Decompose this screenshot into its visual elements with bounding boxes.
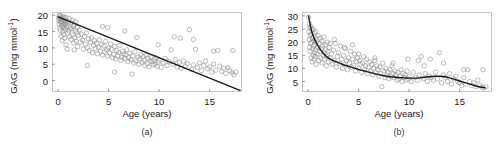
panel-a: GAG (mg mmol-1) 05101505101520 Age (year… (0, 0, 252, 149)
panel-b-x-tick-label: 0 (305, 96, 310, 107)
panel-b-y-tick-label: 20 (274, 37, 298, 48)
panel-a-y-tick-label: 0 (24, 75, 48, 86)
panel-a-x-tick-label: 0 (55, 96, 60, 107)
panel-b-x-tick-label: 5 (356, 96, 361, 107)
panel-a-x-tick-label: 10 (154, 96, 165, 107)
panel-a-canvas (52, 12, 242, 92)
panel-b-x-axis-label: Age (years) (304, 108, 494, 119)
panel-a-plot-area: 05101505101520 (52, 12, 242, 92)
panel-a-x-axis-label: Age (years) (52, 108, 242, 119)
panel-a-y-tick-label: 15 (24, 26, 48, 37)
panel-a-x-tick-label: 15 (204, 96, 215, 107)
panel-a-y-tick-label: 5 (24, 59, 48, 70)
panel-b-scatter-points (306, 15, 488, 90)
panel-a-y-tick-label: 10 (24, 42, 48, 53)
panel-b-canvas (302, 12, 492, 92)
panel-b-x-tick-label: 15 (454, 96, 465, 107)
panel-b-y-tick-label: 25 (274, 24, 298, 35)
panel-b-x-tick-label: 10 (404, 96, 415, 107)
panel-a-y-axis-label: GAG (mg mmol-1) (7, 13, 19, 99)
panel-a-caption: (a) (52, 127, 242, 137)
panel-b-y-tick-label: 5 (274, 76, 298, 87)
panel-a-fit-line (58, 17, 240, 90)
panel-b-y-tick-label: 15 (274, 50, 298, 61)
panel-b-plot-area: 05101551015202530 (302, 12, 492, 92)
panel-b: GAG (mg mmol-1) 05101551015202530 Age (y… (252, 0, 504, 149)
panel-b-y-tick-label: 10 (274, 63, 298, 74)
figure-container: GAG (mg mmol-1) 05101505101520 Age (year… (0, 0, 504, 149)
panel-a-x-tick-label: 5 (106, 96, 111, 107)
panel-b-caption: (b) (304, 127, 494, 137)
panel-b-y-tick-label: 30 (274, 10, 298, 21)
panel-a-y-tick-label: 20 (24, 10, 48, 21)
panel-a-scatter-points (56, 13, 238, 77)
